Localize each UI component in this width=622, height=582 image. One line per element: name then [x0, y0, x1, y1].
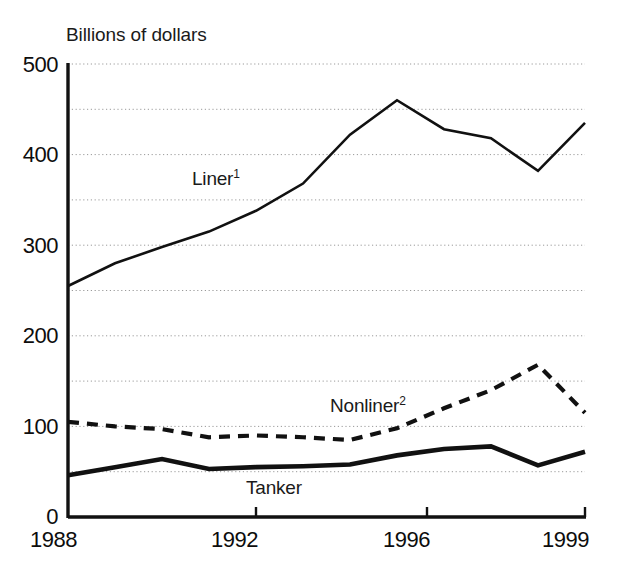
series-line-tanker — [68, 446, 585, 475]
plot-canvas — [0, 0, 622, 582]
line-chart: Billions of dollars 500 400 300 200 100 … — [0, 0, 622, 582]
series-line-nonliner — [68, 365, 585, 440]
series-line-liner — [68, 100, 585, 286]
gridlines — [68, 64, 585, 517]
series-paths — [68, 100, 585, 475]
